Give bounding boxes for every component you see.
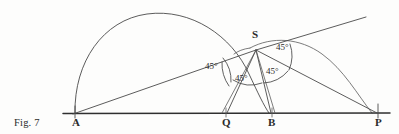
- chord-S-P: [256, 50, 377, 113]
- baseline-segment: [63, 113, 390, 114]
- point-label-P: P: [375, 117, 382, 128]
- ray-A-S-extended: [73, 17, 366, 114]
- angle-arc-left: [223, 58, 231, 82]
- point-label-S: S: [252, 29, 258, 40]
- figure-container: Fig. 7 A Q B P S 45° 45° 45° 45°: [0, 0, 399, 134]
- angle-label-left: 45°: [205, 62, 218, 71]
- angle-label-top-right: 45°: [276, 43, 289, 52]
- geometry-drawing: [0, 0, 399, 134]
- point-label-B: B: [268, 117, 276, 128]
- point-label-A: A: [72, 117, 80, 128]
- angle-arc-top-right: [289, 44, 292, 70]
- semicircle-AP-arc: [75, 13, 269, 113]
- angle-label-bottom-right: 45°: [266, 67, 279, 76]
- figure-caption: Fig. 7: [14, 118, 40, 129]
- angle-label-bottom-mid: 45°: [235, 74, 248, 83]
- point-label-Q: Q: [222, 117, 231, 128]
